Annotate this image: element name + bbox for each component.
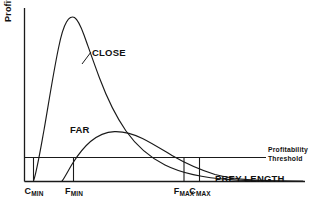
profitability-threshold-annotation: Profitability Threshold [268, 145, 308, 163]
profitability-prey-length-figure: Profitability PREY LENGTH CLOSE FAR Prof… [0, 0, 317, 214]
close-label-leader [82, 52, 91, 64]
tick-label-c-max-main: C [189, 186, 196, 196]
tick-label-c-max-sub: MAX [196, 190, 211, 197]
tick-label-c-min-sub: MIN [31, 190, 43, 197]
tick-label-f-min-main: F [65, 186, 71, 196]
tick-label-c-max: CMAX [186, 186, 214, 196]
threshold-annotation-line-1: Profitability [268, 145, 308, 154]
curve-label-close: CLOSE [92, 47, 126, 58]
x-axis-title: PREY LENGTH [215, 173, 285, 184]
curve-label-far: FAR [70, 124, 90, 135]
tick-label-f-min-sub: MIN [71, 190, 83, 197]
tick-label-c-min: CMIN [21, 186, 47, 196]
threshold-annotation-line-2: Threshold [268, 154, 308, 163]
curve-close [34, 17, 304, 181]
tick-label-f-min: FMIN [61, 186, 87, 196]
y-axis-title: Profitability [3, 0, 13, 22]
